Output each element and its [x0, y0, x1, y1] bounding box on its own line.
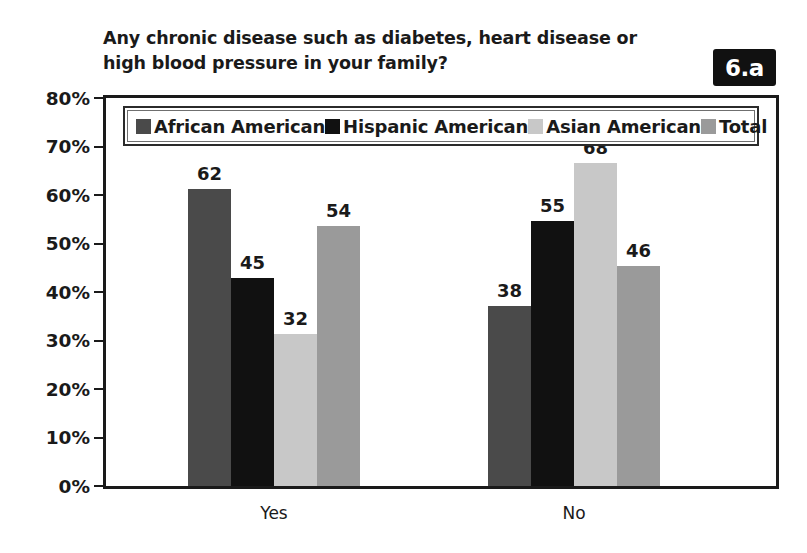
bar: [574, 163, 617, 486]
legend-item[interactable]: Hispanic American: [325, 116, 528, 137]
bar-value-label: 62: [188, 163, 231, 184]
bar-value-label: 55: [531, 195, 574, 216]
y-axis-tick-label: 30%: [46, 330, 94, 351]
y-axis-tick-mark: [94, 340, 103, 342]
bar: [317, 226, 360, 486]
title-line-2: high blood pressure in your family?: [103, 51, 703, 76]
x-axis-category-label: Yes: [260, 503, 287, 523]
y-axis-tick-mark: [94, 97, 103, 99]
figure-number-badge: 6.a: [713, 49, 776, 86]
y-axis-tick-label: 60%: [46, 185, 94, 206]
chart-legend: African AmericanHispanic AmericanAsian A…: [123, 106, 759, 146]
bar-value-label: 45: [231, 252, 274, 273]
bar-value-label: 32: [274, 308, 317, 329]
y-axis-tick-label: 0%: [59, 476, 94, 497]
title-line-1: Any chronic disease such as diabetes, he…: [103, 26, 703, 51]
y-axis-tick-mark: [94, 485, 103, 487]
x-axis-labels: YesNo: [103, 495, 779, 535]
bar: [531, 221, 574, 486]
y-axis-tick-label: 80%: [46, 88, 94, 109]
legend-swatch-icon: [701, 119, 716, 134]
legend-item-label: Hispanic American: [343, 116, 528, 137]
y-axis-tick-label: 50%: [46, 233, 94, 254]
y-axis-tick-label: 40%: [46, 282, 94, 303]
legend-swatch-icon: [325, 119, 340, 134]
bar-value-label: 38: [488, 280, 531, 301]
legend-item-label: Total: [719, 116, 767, 137]
y-axis-tick-label: 10%: [46, 427, 94, 448]
y-axis: 80%70%60%50%40%30%20%10%0%: [0, 95, 103, 489]
bar: [274, 334, 317, 486]
y-axis-tick-mark: [94, 437, 103, 439]
y-axis-tick-mark: [94, 291, 103, 293]
bar-value-label: 54: [317, 200, 360, 221]
legend-item-label: African American: [154, 116, 325, 137]
y-axis-tick-mark: [94, 146, 103, 148]
bar-value-label: 46: [617, 240, 660, 261]
x-axis-category-label: No: [562, 503, 585, 523]
plot-area: 6245325438556846 African AmericanHispani…: [103, 95, 779, 489]
y-axis-tick-label: 20%: [46, 379, 94, 400]
chart-legend-inner: African AmericanHispanic AmericanAsian A…: [127, 110, 755, 142]
legend-item-label: Asian American: [546, 116, 701, 137]
bar: [188, 189, 231, 486]
legend-item[interactable]: Total: [701, 116, 767, 137]
y-axis-tick-label: 70%: [46, 136, 94, 157]
y-axis-tick-mark: [94, 243, 103, 245]
y-axis-tick-mark: [94, 194, 103, 196]
legend-swatch-icon: [528, 119, 543, 134]
legend-swatch-icon: [136, 119, 151, 134]
page-title: Any chronic disease such as diabetes, he…: [103, 26, 703, 76]
chart-figure: Any chronic disease such as diabetes, he…: [0, 0, 807, 553]
bar: [231, 278, 274, 486]
bar: [617, 266, 660, 486]
y-axis-tick-mark: [94, 388, 103, 390]
plot-inner: 6245325438556846: [106, 98, 776, 486]
bar: [488, 306, 531, 486]
legend-item[interactable]: African American: [136, 116, 325, 137]
legend-item[interactable]: Asian American: [528, 116, 701, 137]
